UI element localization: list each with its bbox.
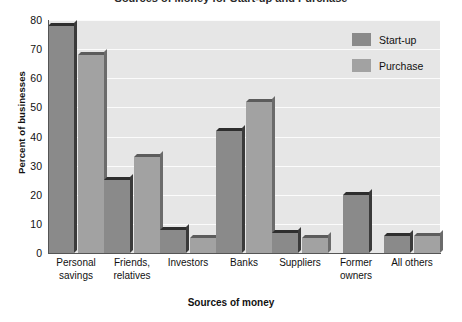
bar-face xyxy=(48,26,74,253)
bar-top-cap xyxy=(302,235,331,238)
legend: Start-up Purchase xyxy=(352,33,423,85)
bar-side xyxy=(186,224,189,253)
chart-title-text: Sources of Money for Start-up and Purcha… xyxy=(0,0,462,4)
bar-purchase-all-others xyxy=(414,236,440,253)
bar-face xyxy=(134,157,160,253)
bar-face xyxy=(272,233,298,253)
bar-face xyxy=(302,238,328,253)
bar-top-cap xyxy=(78,52,107,55)
bar-side xyxy=(410,230,413,253)
bar-side xyxy=(440,230,443,253)
bar-face xyxy=(190,238,216,253)
bar-top-cap xyxy=(414,233,443,236)
bar-top-cap xyxy=(48,23,77,26)
bar-top-cap xyxy=(343,192,372,195)
bar-top-cap xyxy=(104,177,133,180)
y-tick-label: 10 xyxy=(0,218,42,230)
y-tick-label: 20 xyxy=(0,189,42,201)
bar-start-up-investors xyxy=(160,230,186,253)
bar-start-up-personal-savings xyxy=(48,26,74,253)
bar-face xyxy=(246,102,272,253)
bar-purchase-friends-relatives xyxy=(134,157,160,253)
bar-start-up-banks xyxy=(216,131,242,253)
bar-face xyxy=(160,230,186,253)
bar-purchase-investors xyxy=(190,238,216,253)
bar-purchase-personal-savings xyxy=(78,55,104,253)
x-tick-label: Formerowners xyxy=(328,257,384,282)
legend-item-startup[interactable]: Start-up xyxy=(352,33,423,46)
bar-top-cap xyxy=(384,233,413,236)
x-tick-label: Personalsavings xyxy=(48,257,104,282)
bar-top-cap xyxy=(216,128,245,131)
legend-swatch-purchase-icon xyxy=(352,59,371,72)
bar-chart: Sources of Money for Start-up and Purcha… xyxy=(0,0,462,322)
bar-top-cap xyxy=(190,235,219,238)
bar-start-up-former-owners xyxy=(343,195,369,253)
bar-top-cap xyxy=(272,230,301,233)
y-tick-label: 30 xyxy=(0,160,42,172)
y-tick-label: 40 xyxy=(0,131,42,143)
chart-title-sliver: Sources of Money for Start-up and Purcha… xyxy=(0,0,462,9)
legend-item-purchase[interactable]: Purchase xyxy=(352,59,423,72)
bar-face xyxy=(343,195,369,253)
bar-side xyxy=(298,227,301,253)
y-tick-label: 50 xyxy=(0,101,42,113)
x-tick-label: Friends,relatives xyxy=(104,257,160,282)
y-tick-label: 70 xyxy=(0,43,42,55)
bar-start-up-suppliers xyxy=(272,233,298,253)
x-tick-label: Investors xyxy=(160,257,216,270)
bar-face xyxy=(414,236,440,253)
x-tick-label: All others xyxy=(384,257,440,270)
legend-label-startup: Start-up xyxy=(379,34,416,46)
x-axis-ticks: PersonalsavingsFriends,relativesInvestor… xyxy=(48,257,440,297)
x-axis-title: Sources of money xyxy=(0,297,462,308)
bar-top-cap xyxy=(134,154,163,157)
bar-side xyxy=(130,174,133,253)
bar-face xyxy=(78,55,104,253)
x-tick-label: Banks xyxy=(216,257,272,270)
bar-purchase-suppliers xyxy=(302,238,328,253)
y-tick-label: 0 xyxy=(0,247,42,259)
bar-face xyxy=(216,131,242,253)
x-axis-line xyxy=(48,253,441,254)
y-axis-line xyxy=(48,20,49,254)
bar-start-up-all-others xyxy=(384,236,410,253)
x-tick-label: Suppliers xyxy=(272,257,328,270)
bar-side xyxy=(242,125,245,253)
bar-face xyxy=(104,180,130,253)
bar-side xyxy=(369,189,372,253)
bar-start-up-friends-relatives xyxy=(104,180,130,253)
bar-top-cap xyxy=(246,99,275,102)
y-tick-label: 80 xyxy=(0,14,42,26)
legend-label-purchase: Purchase xyxy=(379,60,423,72)
bar-top-cap xyxy=(160,227,189,230)
legend-swatch-startup-icon xyxy=(352,33,371,46)
y-tick-label: 60 xyxy=(0,72,42,84)
bar-face xyxy=(384,236,410,253)
bar-purchase-banks xyxy=(246,102,272,253)
bar-side xyxy=(328,232,331,253)
